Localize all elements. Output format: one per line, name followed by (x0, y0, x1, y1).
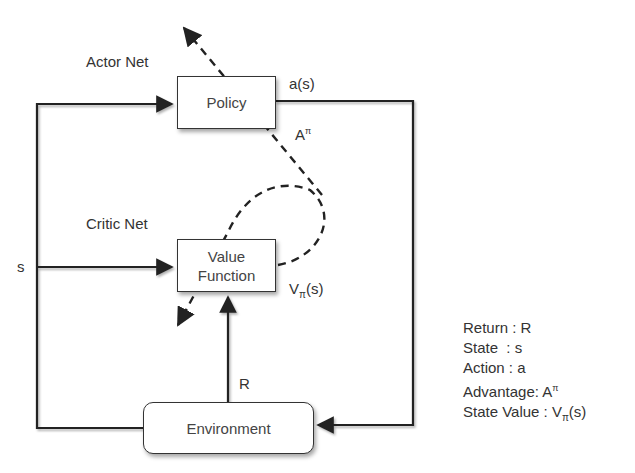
critic-net-label: Critic Net (86, 215, 148, 232)
policy-node-label: Policy (206, 93, 246, 112)
value-function-label-line1: Value (208, 247, 245, 266)
legend-state: State : s (463, 338, 586, 358)
action-line (275, 101, 413, 425)
legend-action: Action : a (463, 358, 586, 378)
state-value-label: Vπ(s) (289, 280, 323, 300)
state-label: s (17, 258, 25, 275)
actor-net-label: Actor Net (86, 53, 149, 70)
legend-return: Return : R (463, 318, 586, 338)
action-label: a(s) (289, 75, 315, 92)
legend: Return : R State : s Action : a Advantag… (463, 318, 586, 428)
legend-advantage: Advantage: Aπ (463, 378, 586, 402)
environment-node-label: Environment (186, 419, 270, 438)
policy-node: Policy (177, 76, 276, 129)
value-function-node: Value Function (177, 239, 276, 292)
reward-label: R (239, 375, 250, 392)
environment-node: Environment (143, 402, 314, 454)
value-function-label-line2: Function (198, 266, 256, 285)
advantage-label: Aπ (295, 126, 311, 143)
legend-state-value: State Value : Vπ(s) (463, 402, 586, 428)
